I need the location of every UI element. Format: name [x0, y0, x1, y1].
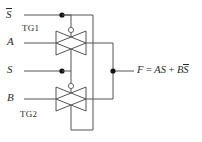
output-label-f: F [137, 64, 143, 75]
tg2-pmos-bubble [68, 83, 73, 88]
output-term2-s-bar: S [183, 64, 188, 76]
input-label-s-bar: S [6, 8, 12, 20]
gate-label-tg1: TG1 [22, 24, 39, 33]
input-label-s: S [7, 64, 13, 75]
input-label-a: A [7, 36, 14, 47]
tg1-pmos-bubble [68, 27, 73, 32]
figure-canvas: S A S B TG1 TG2 F=AS+BS [0, 0, 202, 142]
input-label-b: B [7, 92, 14, 103]
gate-label-tg2: TG2 [20, 110, 37, 119]
output-equation: F=AS+BS [137, 64, 189, 76]
output-equals: = [146, 64, 152, 75]
output-plus: + [169, 64, 175, 75]
input-label-s-bar-text: S [6, 8, 12, 20]
junction-dot-output [110, 68, 115, 73]
output-term1-s: S [161, 64, 166, 75]
